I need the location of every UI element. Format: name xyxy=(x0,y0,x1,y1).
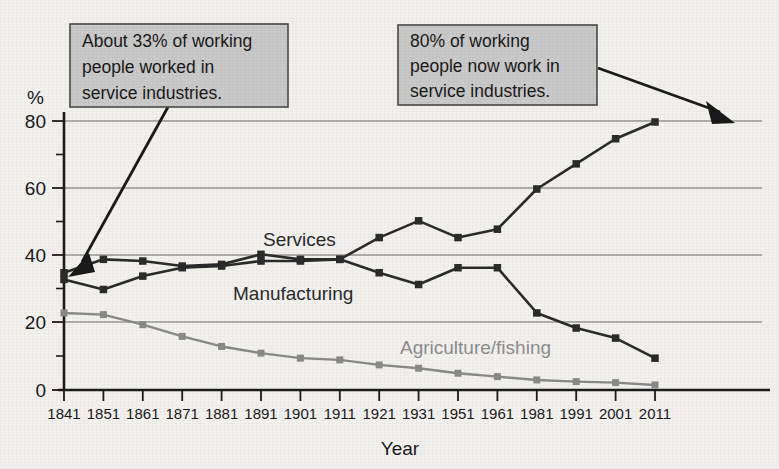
y-tick-label-60: 60 xyxy=(25,178,46,199)
data-point-1891 xyxy=(257,257,265,265)
y-tick-label-0: 0 xyxy=(35,380,46,401)
data-point-1931 xyxy=(415,281,423,289)
callout-pointer-right xyxy=(598,68,735,124)
data-point-1881 xyxy=(218,343,225,350)
data-point-2001 xyxy=(612,135,620,143)
callout-left-line-2: people worked in xyxy=(82,57,214,77)
data-point-1921 xyxy=(375,269,383,277)
data-point-1961 xyxy=(494,225,502,233)
x-tick-label-2011: 2011 xyxy=(639,405,671,422)
data-point-1871 xyxy=(179,333,186,340)
gridlines xyxy=(64,121,762,322)
x-tick-label-1921: 1921 xyxy=(363,405,396,422)
data-point-1981 xyxy=(533,376,540,383)
callout-left-line-3: service industries. xyxy=(82,83,222,103)
series-label-agriculture: Agriculture/fishing xyxy=(400,337,551,358)
x-tick-label-1911: 1911 xyxy=(324,405,356,422)
y-axis-ticks xyxy=(52,121,64,390)
data-point-1951 xyxy=(454,234,462,242)
data-point-1921 xyxy=(376,361,383,368)
data-point-1881 xyxy=(218,262,226,270)
data-point-1991 xyxy=(572,160,580,168)
data-point-1991 xyxy=(572,324,580,332)
data-point-1931 xyxy=(415,365,422,372)
series-agriculture-fishing xyxy=(61,309,659,388)
series-label-services: Services xyxy=(263,229,336,250)
series-line xyxy=(64,122,655,273)
x-tick-label-1901: 1901 xyxy=(284,405,317,422)
data-series-layer xyxy=(60,118,659,388)
data-point-1851 xyxy=(100,286,108,294)
data-point-1841 xyxy=(61,309,68,316)
y-axis-unit-label: % xyxy=(27,87,44,108)
data-point-1861 xyxy=(139,272,147,280)
callout-left[interactable]: About 33% of working people worked in se… xyxy=(70,24,288,107)
x-tick-label-1981: 1981 xyxy=(520,405,553,422)
data-point-1951 xyxy=(455,370,462,377)
x-axis-tick-labels: 1841185118611871188118911901191119211931… xyxy=(47,405,671,422)
data-point-1911 xyxy=(336,256,344,264)
callout-right-line-2: people now work in xyxy=(410,56,560,76)
data-point-2011 xyxy=(652,381,659,388)
callout-pointer-left xyxy=(68,107,168,277)
data-point-1991 xyxy=(573,378,580,385)
data-point-1961 xyxy=(494,373,501,380)
y-tick-label-20: 20 xyxy=(25,312,46,333)
employment-by-sector-line-chart: 80 60 40 20 0 % 184118511861187118811891… xyxy=(0,0,779,469)
x-tick-label-1851: 1851 xyxy=(87,405,120,422)
x-tick-label-1961: 1961 xyxy=(481,405,514,422)
data-point-1851 xyxy=(100,311,107,318)
callout-right-line-1: 80% of working xyxy=(410,31,530,51)
x-tick-label-1891: 1891 xyxy=(244,405,277,422)
callout-right[interactable]: 80% of working people now work in servic… xyxy=(398,25,597,105)
data-point-2011 xyxy=(651,118,659,126)
chart-stage: 80 60 40 20 0 % 184118511861187118811891… xyxy=(0,0,779,469)
x-tick-label-2001: 2001 xyxy=(599,405,632,422)
data-point-1871 xyxy=(178,264,186,272)
x-axis-ticks xyxy=(64,390,655,401)
y-tick-label-40: 40 xyxy=(25,245,46,266)
callout-right-line-3: service industries. xyxy=(410,81,550,101)
x-tick-label-1841: 1841 xyxy=(47,405,80,422)
callout-left-line-1: About 33% of working xyxy=(82,31,252,51)
data-point-1891 xyxy=(258,350,265,357)
data-point-1891 xyxy=(257,251,265,259)
arrow-head-left xyxy=(68,253,95,277)
y-tick-label-80: 80 xyxy=(25,111,46,132)
x-tick-label-1931: 1931 xyxy=(402,405,435,422)
data-point-2001 xyxy=(612,379,619,386)
series-line xyxy=(64,259,655,358)
x-tick-label-1951: 1951 xyxy=(441,405,474,422)
data-point-1861 xyxy=(139,257,147,265)
data-point-1981 xyxy=(533,309,541,317)
data-point-1921 xyxy=(375,234,383,242)
data-point-1861 xyxy=(139,321,146,328)
data-point-1911 xyxy=(336,356,343,363)
series-manufacturing xyxy=(60,256,659,362)
data-point-1961 xyxy=(494,264,502,272)
data-point-1931 xyxy=(415,217,423,225)
x-tick-label-1861: 1861 xyxy=(126,405,159,422)
data-point-2011 xyxy=(651,354,659,362)
x-tick-label-1881: 1881 xyxy=(205,405,238,422)
data-point-2001 xyxy=(612,334,620,342)
data-point-1981 xyxy=(533,185,541,193)
x-tick-label-1991: 1991 xyxy=(560,405,593,422)
series-label-manufacturing: Manufacturing xyxy=(233,283,353,304)
data-point-1851 xyxy=(100,256,108,264)
data-point-1951 xyxy=(454,264,462,272)
data-point-1841 xyxy=(60,276,68,284)
data-point-1901 xyxy=(297,355,304,362)
x-tick-label-1871: 1871 xyxy=(166,405,199,422)
data-point-1901 xyxy=(297,257,305,265)
data-point-1841 xyxy=(60,269,68,277)
x-axis-title: Year xyxy=(381,438,420,459)
